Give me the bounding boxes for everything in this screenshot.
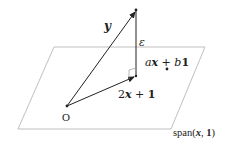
origin-label: O	[62, 111, 70, 123]
top-point	[135, 9, 138, 12]
residual-epsilon-label: ε	[139, 36, 145, 49]
projection-diagram: y ε ax + b1 2x + 1 O span(x, 1)	[0, 0, 242, 148]
label-one: 1	[181, 56, 189, 69]
projection-label: 2x + 1	[118, 88, 155, 101]
origin-point	[66, 105, 69, 108]
foot-point	[135, 75, 137, 77]
label-one: 1	[148, 88, 156, 101]
label-plus: +	[132, 88, 148, 101]
label-plus: +	[158, 56, 174, 69]
plane-label: span(x, 1)	[173, 127, 216, 139]
fitted-point-label: ax + b1	[145, 56, 189, 69]
vector-y-label: y	[103, 19, 112, 33]
span-text: span(	[173, 127, 196, 139]
label-coef: 2	[118, 88, 125, 101]
span-close: )	[212, 127, 216, 139]
label-b: b	[174, 56, 181, 69]
